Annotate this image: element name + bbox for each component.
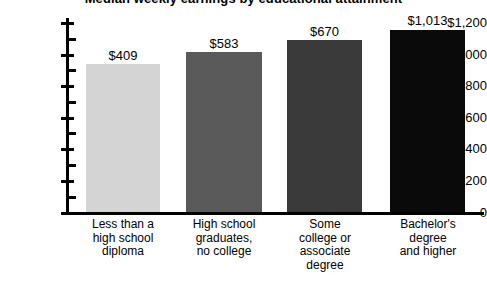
category-label-1-line-3: diploma: [73, 245, 173, 259]
category-label-1: Less than a high school diploma: [73, 218, 173, 259]
y-tick-major-600: [61, 117, 74, 120]
category-label-4-line-3: and higher: [378, 245, 478, 259]
category-label-2-line-1: High school: [174, 218, 274, 232]
category-label-2-line-3: no college: [174, 245, 274, 259]
y-tick-major-400: [61, 148, 74, 151]
y-tick-major-200: [61, 180, 74, 183]
bar-chart: Median weekly earnings by educational at…: [0, 0, 487, 281]
y-tick-major-1000: [61, 54, 74, 57]
category-label-4-line-2: degree: [378, 232, 478, 246]
bar-value-label-3: $670: [287, 24, 362, 39]
category-label-3-line-2: college or: [275, 232, 375, 246]
bar-value-label-4: $1,013: [390, 13, 465, 28]
y-tick-minor-500: [69, 132, 76, 135]
category-label-2-line-2: graduates,: [174, 232, 274, 246]
category-label-4-line-1: Bachelor's: [378, 218, 478, 232]
bar-bachelors-degree[interactable]: [390, 30, 465, 212]
category-label-1-line-2: high school: [73, 232, 173, 246]
y-tick-minor-300: [69, 164, 76, 167]
bar-less-than-high-school[interactable]: [86, 64, 160, 212]
category-label-2: High school graduates, no college: [174, 218, 274, 259]
y-tick-major-800: [61, 85, 74, 88]
y-axis-line: [66, 18, 69, 214]
category-label-3: Some college or associate degree: [275, 218, 375, 272]
category-label-3-line-1: Some: [275, 218, 375, 232]
category-label-3-line-3: associate: [275, 245, 375, 259]
y-tick-minor-900: [69, 69, 76, 72]
bar-high-school-graduates[interactable]: [186, 52, 262, 212]
category-label-1-line-1: Less than a: [73, 218, 173, 232]
category-label-3-line-4: degree: [275, 259, 375, 273]
bar-value-label-2: $583: [186, 36, 262, 51]
y-tick-minor-700: [69, 101, 76, 104]
bar-some-college[interactable]: [287, 40, 362, 212]
category-label-4: Bachelor's degree and higher: [378, 218, 478, 259]
y-tick-minor-100: [69, 196, 76, 199]
x-axis-line: [63, 212, 484, 215]
plot-area: $1,200 1,000 800 600 400 200 0 $409 $583…: [0, 0, 487, 281]
y-tick-major-1200: [61, 22, 74, 25]
y-tick-minor-1100: [69, 38, 76, 41]
bar-value-label-1: $409: [86, 48, 160, 63]
